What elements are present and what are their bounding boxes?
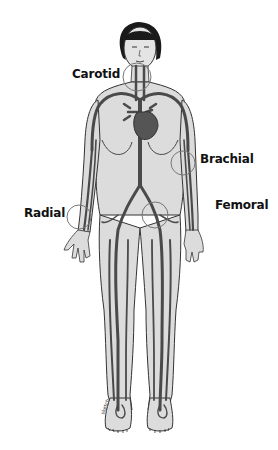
left-leg <box>99 215 140 410</box>
brachial-label: Brachial <box>200 152 254 166</box>
body-illustration: sketch <box>0 0 278 450</box>
left-arm <box>78 100 100 232</box>
right-hand <box>184 230 203 262</box>
heart <box>134 112 158 140</box>
left-hand <box>64 230 90 262</box>
carotid-label: Carotid <box>72 67 120 81</box>
femoral-label: Femoral <box>215 198 268 212</box>
radial-label: Radial <box>24 206 65 220</box>
pulse-points-diagram: sketch Carotid Brachial Femoral Radial <box>0 0 278 450</box>
